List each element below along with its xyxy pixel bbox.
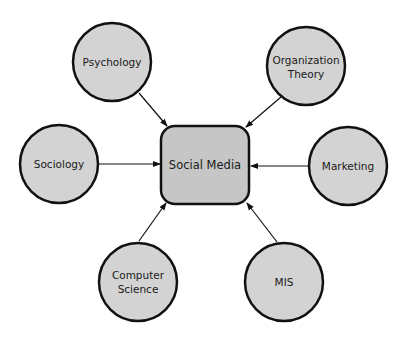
edge-computer-science-to-social-media <box>139 203 166 241</box>
edge-organization-theory-to-social-media <box>246 97 281 127</box>
node-psychology: Psychology <box>73 23 151 101</box>
node-label-line-1: Computer <box>112 269 165 281</box>
center-node-social-media: Social Media <box>161 126 249 204</box>
node-circle <box>267 27 345 105</box>
node-label-line-1: Organization <box>272 54 339 66</box>
node-organization-theory: Organization Theory <box>267 27 345 105</box>
node-label: MIS <box>275 276 294 288</box>
node-computer-science: Computer Science <box>99 243 177 321</box>
node-label: Marketing <box>322 160 374 172</box>
node-circle <box>99 243 177 321</box>
node-label: Psychology <box>83 56 142 68</box>
node-label-line-2: Science <box>118 283 159 295</box>
node-label: Sociology <box>34 158 84 170</box>
node-label-line-2: Theory <box>287 68 324 80</box>
edge-psychology-to-social-media <box>139 93 167 126</box>
node-marketing: Marketing <box>309 127 387 205</box>
social-media-diagram: Social Media Psychology Organization The… <box>0 0 405 340</box>
center-label: Social Media <box>169 158 241 172</box>
node-mis: MIS <box>245 243 323 321</box>
edge-mis-to-social-media <box>247 203 277 242</box>
node-sociology: Sociology <box>20 125 98 203</box>
